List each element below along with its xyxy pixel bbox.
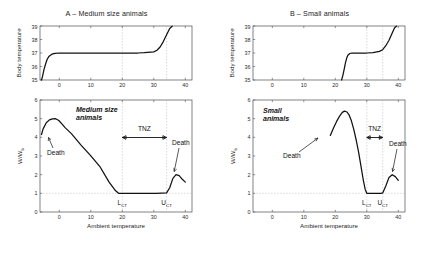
panel-b-bottom-ylabel-main: W/W (229, 150, 236, 164)
panel-a-bottom-ylabel: W/Wb (16, 148, 25, 164)
panel-a-top-xtick-2: 20 (119, 82, 125, 88)
panel-a: A – Medium size animals (0, 0, 213, 253)
panel-b-top-ytick-3: 38 (245, 37, 251, 43)
panel-b-bottom-ylabel-sub: b (233, 148, 238, 151)
panel-a-top-subplot: 0 10 20 30 40 35 36 37 38 39 Body temper… (15, 24, 192, 89)
panel-a-top-xtick-1: 10 (88, 82, 94, 88)
panel-b-charts: 0 10 20 30 40 35 36 37 38 39 Body temper… (213, 0, 426, 253)
panel-a-bottom-xtick-3: 30 (151, 214, 157, 220)
panel-b-inset-label-line2: animals (263, 115, 289, 122)
panel-b-top-ytick-4: 39 (245, 24, 251, 30)
panel-a-bottom-xtick-0: 0 (58, 214, 61, 220)
panel-b-top-ytick-0: 35 (245, 77, 251, 83)
panel-b-tnz-label: TNZ (368, 125, 381, 132)
panel-b-bottom-ytick-0: 0 (248, 209, 251, 215)
panel-b-top-subplot: 0 10 20 30 40 35 36 37 38 39 Body temper… (228, 24, 405, 89)
panel-a-death-right-label: Death (172, 139, 190, 146)
panel-a-top-ylabel: Body temperature (15, 28, 22, 78)
panel-b-top-xtick-1: 10 (301, 82, 307, 88)
panel-b-top-ytick-2: 37 (245, 50, 251, 56)
panel-b-top-ylabel: Body temperature (228, 28, 235, 78)
panel-a-top-xtick-3: 30 (151, 82, 157, 88)
panel-a-bottom-ytick-0: 0 (35, 209, 38, 215)
panel-a-svg: 0 10 20 30 40 35 36 37 38 39 Body temper… (0, 0, 213, 253)
panel-b-top-xtick-3: 30 (364, 82, 370, 88)
panel-b-bottom-ytick-4: 4 (248, 134, 251, 140)
panel-b-bottom-xtick-2: 20 (332, 214, 338, 220)
panel-a-bottom-ytick-6: 6 (35, 97, 38, 103)
panel-b-bottom-xlabel: Ambient temperature (300, 222, 358, 229)
panel-a-top-ytick-3: 38 (32, 37, 38, 43)
panel-b-top-xtick-4: 40 (395, 82, 401, 88)
panel-a-charts: 0 10 20 30 40 35 36 37 38 39 Body temper… (0, 0, 213, 253)
panel-a-bottom-ytick-1: 1 (35, 190, 38, 196)
panel-b-top-xtick-0: 0 (271, 82, 274, 88)
panel-b-inset-label-line1: Small (263, 107, 283, 114)
panel-a-top-xtick-4: 40 (182, 82, 188, 88)
panel-a-bottom-xtick-1: 10 (88, 214, 94, 220)
panel-b-svg: 0 10 20 30 40 35 36 37 38 39 Body temper… (213, 0, 426, 253)
panel-b-bottom-ytick-2: 2 (248, 172, 251, 178)
panel-a-bottom-ytick-4: 4 (35, 134, 38, 140)
panel-a-top-ytick-4: 39 (32, 24, 38, 30)
panel-a-inset-label-line2: animals (76, 114, 102, 121)
panel-a-inset-label-line1: Medium size (76, 106, 118, 113)
panel-a-bottom-ytick-2: 2 (35, 172, 38, 178)
panel-b-bottom-ylabel: W/Wb (229, 148, 238, 164)
panel-a-top-ytick-1: 36 (32, 64, 38, 70)
panel-a-bottom-ytick-5: 5 (35, 116, 38, 122)
panel-b-bottom-ytick-1: 1 (248, 190, 251, 196)
panel-b-bottom-xtick-1: 10 (301, 214, 307, 220)
panel-b-top-xtick-2: 20 (332, 82, 338, 88)
panel-b-bottom-xtick-4: 40 (395, 214, 401, 220)
panel-b-bottom-ytick-6: 6 (248, 97, 251, 103)
panel-b-bottom-ytick-5: 5 (248, 116, 251, 122)
panel-b-top-ytick-1: 36 (245, 64, 251, 70)
panel-a-bottom-xtick-2: 20 (119, 214, 125, 220)
panel-a-bottom-ylabel-main: W/W (16, 150, 23, 164)
panel-a-bottom-xtick-4: 40 (182, 214, 188, 220)
panel-a-death-left-label: Death (47, 149, 65, 156)
panel-a-tnz-label: TNZ (138, 125, 151, 132)
panel-b: B – Small animals (213, 0, 426, 253)
panel-b-bottom-subplot: 0 10 20 30 40 0 1 2 3 4 5 6 W/Wb (229, 97, 407, 229)
panel-a-top-xtick-0: 0 (58, 82, 61, 88)
panel-a-bottom-subplot: 0 10 20 30 40 0 1 2 3 4 5 6 W/ (16, 97, 192, 229)
panel-b-bottom-ytick-3: 3 (248, 153, 251, 159)
panel-b-bottom-xtick-0: 0 (271, 214, 274, 220)
panel-a-top-ytick-2: 37 (32, 50, 38, 56)
thermoregulation-figure: A – Medium size animals (0, 0, 426, 253)
panel-b-death-left-label: Death (283, 152, 301, 159)
panel-a-bottom-xlabel: Ambient temperature (87, 222, 145, 229)
panel-a-bottom-ytick-3: 3 (35, 153, 38, 159)
panel-b-death-right-label: Death (389, 140, 407, 147)
panel-b-bottom-xtick-3: 30 (364, 214, 370, 220)
panel-a-bottom-ylabel-sub: b (20, 148, 25, 151)
panel-a-top-ytick-0: 35 (32, 77, 38, 83)
